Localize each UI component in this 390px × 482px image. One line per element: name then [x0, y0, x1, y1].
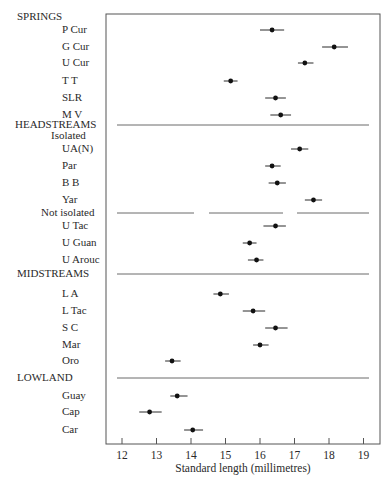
section-label: LOWLAND — [17, 371, 73, 383]
data-point — [243, 241, 257, 246]
row-label: U Tac — [62, 219, 88, 231]
x-tick-label: 17 — [289, 449, 301, 461]
data-point — [184, 428, 203, 433]
data-point — [165, 359, 181, 364]
row-label: T T — [62, 74, 78, 86]
mean-marker — [175, 394, 180, 399]
mean-marker — [273, 224, 278, 229]
data-point — [265, 96, 286, 101]
mean-marker — [275, 181, 280, 186]
x-tick-label: 18 — [323, 449, 335, 461]
row-label: Cap — [62, 405, 80, 417]
group-separators — [117, 125, 369, 378]
x-tick-label: 19 — [358, 449, 370, 461]
mean-marker — [302, 61, 307, 66]
row-label: Oro — [62, 354, 79, 366]
mean-marker — [228, 79, 233, 84]
data-point — [291, 147, 308, 152]
mean-marker — [254, 258, 259, 263]
data-point — [305, 198, 322, 203]
mean-marker — [273, 96, 278, 101]
row-label: L A — [62, 287, 78, 299]
row-label: Par — [62, 159, 77, 171]
row-label: U Cur — [62, 56, 89, 68]
x-tick-label: 16 — [254, 449, 266, 461]
row-label: Mar — [62, 338, 80, 350]
data-point — [224, 79, 238, 84]
data-point — [213, 292, 229, 297]
mean-marker — [278, 113, 283, 118]
mean-marker — [258, 343, 263, 348]
data-point — [263, 224, 285, 229]
row-label: Car — [62, 423, 78, 435]
plot-frame — [106, 14, 380, 444]
mean-marker — [247, 241, 252, 246]
mean-marker — [170, 359, 175, 364]
data-point — [248, 258, 264, 263]
section-label: SPRINGS — [17, 10, 62, 22]
row-label: SLR — [62, 91, 82, 103]
row-label: S C — [62, 321, 78, 333]
mean-marker — [218, 292, 223, 297]
section-label: MIDSTREAMS — [17, 267, 89, 279]
x-axis-label: Standard length (millimetres) — [175, 462, 311, 475]
data-point — [243, 309, 265, 314]
row-label: G Cur — [62, 40, 89, 52]
row-label: U Guan — [62, 236, 97, 248]
data-point — [170, 394, 187, 399]
data-points — [139, 28, 348, 433]
subsection-label: Isolated — [51, 129, 86, 141]
mean-marker — [270, 164, 275, 169]
x-axis: 1213141516171819 — [116, 438, 369, 461]
mean-marker — [190, 428, 195, 433]
subsection-label: Not isolated — [41, 206, 94, 218]
data-point — [269, 181, 286, 186]
x-tick-label: 15 — [220, 449, 232, 461]
data-point — [260, 28, 284, 33]
data-point — [270, 113, 291, 118]
mean-marker — [270, 28, 275, 33]
data-point — [265, 326, 287, 331]
x-tick-label: 14 — [185, 449, 197, 461]
mean-marker — [311, 198, 316, 203]
row-label: B B — [62, 176, 79, 188]
row-label: Yar — [62, 193, 77, 205]
x-tick-label: 12 — [116, 449, 128, 461]
data-point — [298, 61, 314, 66]
row-label: P Cur — [62, 23, 87, 35]
mean-marker — [273, 326, 278, 331]
data-point — [253, 343, 269, 348]
mean-marker — [251, 309, 256, 314]
chart-canvas: 1213141516171819 Standard length (millim… — [0, 0, 390, 482]
row-label: L Tac — [62, 304, 87, 316]
x-tick-label: 13 — [151, 449, 163, 461]
row-label: U Arouc — [62, 253, 100, 265]
row-label: UA(N) — [62, 142, 93, 154]
mean-marker — [297, 147, 302, 152]
mean-marker — [332, 45, 337, 50]
data-point — [139, 410, 161, 415]
mean-marker — [147, 410, 152, 415]
data-point — [322, 45, 348, 50]
data-point — [265, 164, 281, 169]
row-label: Guay — [62, 389, 86, 401]
